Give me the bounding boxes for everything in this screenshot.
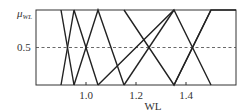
x-tick-label: 1.2	[129, 89, 143, 101]
membership-function-chart: μWL 0.5 1.0 1.2 1.4 WL	[0, 0, 251, 112]
y-tick-label: 0.5	[17, 41, 31, 53]
x-axis-label: WL	[144, 100, 161, 112]
x-tick-label: 1.0	[79, 89, 93, 101]
y-axis-label: μWL	[16, 7, 32, 21]
x-tick-label: 1.4	[179, 89, 193, 101]
